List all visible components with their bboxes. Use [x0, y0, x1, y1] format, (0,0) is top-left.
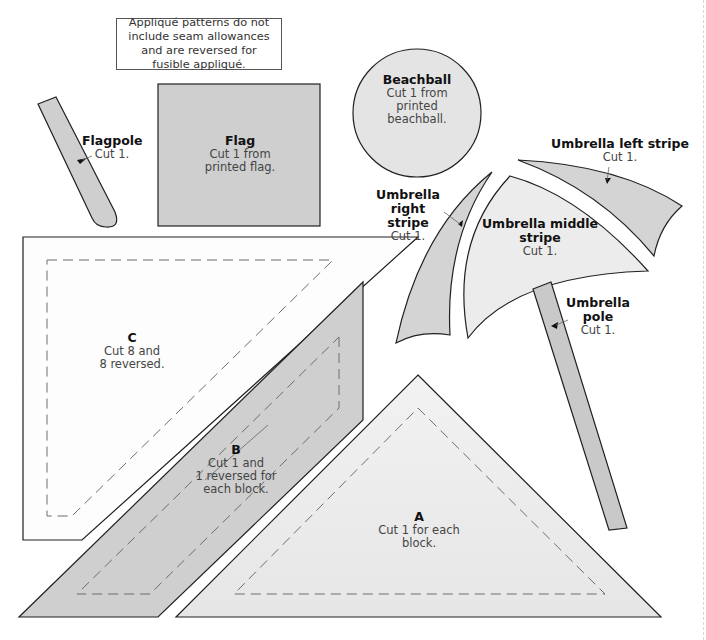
- piece-b-instruction-line1: Cut 1 and: [188, 457, 284, 470]
- umbrella-pole-label: Umbrella pole Cut 1.: [560, 296, 636, 337]
- piece-c-label: C Cut 8 and 8 reversed.: [90, 331, 174, 371]
- piece-a-label: A Cut 1 for each block.: [362, 510, 476, 550]
- umbrella-right-stripe-title-line1: Umbrella right: [358, 188, 458, 216]
- flag-title: Flag: [190, 134, 290, 148]
- umbrella-middle-stripe-instruction: Cut 1.: [480, 245, 600, 258]
- beachball-instruction-line2: printed: [372, 100, 462, 113]
- flag-instruction-line1: Cut 1 from: [190, 148, 290, 161]
- piece-c-title: C: [90, 331, 174, 345]
- umbrella-left-stripe-label: Umbrella left stripe Cut 1.: [550, 137, 690, 164]
- beachball-title: Beachball: [372, 73, 462, 87]
- flagpole-label: Flagpole Cut 1.: [82, 134, 142, 161]
- flag-instruction-line2: printed flag.: [190, 161, 290, 174]
- flag-label: Flag Cut 1 from printed flag.: [190, 134, 290, 174]
- piece-c-instruction-line1: Cut 8 and: [90, 345, 174, 358]
- beachball-label: Beachball Cut 1 from printed beachball.: [372, 73, 462, 126]
- piece-a-title: A: [362, 510, 476, 524]
- piece-a-instruction: Cut 1 for each block.: [362, 524, 476, 550]
- piece-b-title: B: [188, 443, 284, 457]
- piece-c-instruction-line2: 8 reversed.: [90, 358, 174, 371]
- beachball-instruction-line1: Cut 1 from: [372, 87, 462, 100]
- umbrella-pole-title-line1: Umbrella: [560, 296, 636, 310]
- flagpole-piece: [38, 97, 117, 227]
- piece-b-label: B Cut 1 and 1 reversed for each block.: [188, 443, 284, 496]
- umbrella-right-stripe-instruction: Cut 1.: [358, 230, 458, 243]
- umbrella-pole-title-line2: pole: [560, 310, 636, 324]
- piece-b-instruction-line3: each block.: [188, 483, 284, 496]
- notice-text: Appliqué patterns do not include seam al…: [121, 16, 277, 71]
- umbrella-left-stripe-instruction: Cut 1.: [550, 151, 690, 164]
- notice-box: Appliqué patterns do not include seam al…: [116, 18, 282, 70]
- umbrella-right-stripe-label: Umbrella right stripe Cut 1.: [358, 188, 458, 243]
- umbrella-right-stripe-title-line2: stripe: [358, 216, 458, 230]
- flagpole-instruction: Cut 1.: [82, 148, 142, 161]
- flagpole-title: Flagpole: [82, 134, 142, 148]
- umbrella-middle-stripe-title-line2: stripe: [480, 231, 600, 245]
- umbrella-middle-stripe-label: Umbrella middle stripe Cut 1.: [480, 217, 600, 258]
- umbrella-pole-instruction: Cut 1.: [560, 324, 636, 337]
- umbrella-left-stripe-title: Umbrella left stripe: [550, 137, 690, 151]
- beachball-instruction-line3: beachball.: [372, 113, 462, 126]
- umbrella-middle-stripe-title-line1: Umbrella middle: [480, 217, 600, 231]
- piece-b-instruction-line2: 1 reversed for: [188, 470, 284, 483]
